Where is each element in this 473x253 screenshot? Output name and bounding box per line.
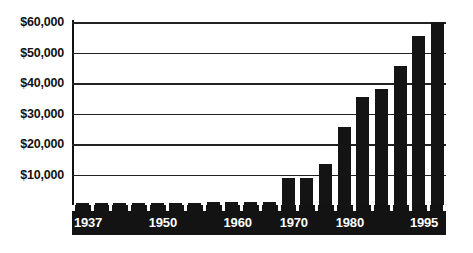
x-axis-tick-label: 1980: [336, 215, 364, 230]
x-axis-tick: [409, 205, 412, 211]
x-axis-tick: [296, 205, 299, 211]
bar-chart: $60,000$50,000$40,000$30,000$20,000$10,0…: [0, 0, 473, 253]
y-axis-tick-label: $40,000: [20, 76, 64, 90]
bar: [300, 178, 313, 205]
bar: [412, 36, 425, 205]
x-axis-tick-label: 1960: [224, 215, 252, 230]
x-axis-tick: [203, 205, 206, 211]
bar: [319, 164, 332, 205]
bar: [282, 178, 295, 205]
bar: [375, 89, 388, 205]
x-axis-tick: [390, 205, 393, 211]
y-axis-tick-label: $30,000: [20, 107, 64, 121]
y-axis-tick-label: $50,000: [20, 46, 64, 60]
x-axis-tick: [128, 205, 131, 211]
y-axis-tick-labels: $60,000$50,000$40,000$30,000$20,000$10,0…: [0, 0, 68, 253]
y-axis-tick-label: $60,000: [20, 15, 64, 29]
x-axis-tick: [443, 205, 446, 211]
x-axis-tick-label: 1937: [74, 215, 102, 230]
x-axis-tick: [222, 205, 225, 211]
bar: [394, 66, 407, 205]
bar: [356, 97, 369, 205]
y-axis-tick-label: $10,000: [20, 168, 64, 182]
x-axis-tick: [184, 205, 187, 211]
x-axis-tick: [371, 205, 374, 211]
x-axis-tick-label: 1970: [280, 215, 308, 230]
x-axis-band: 193719501960197019801995: [72, 205, 446, 235]
x-axis-tick: [427, 205, 430, 211]
plot-area: [72, 22, 446, 205]
y-axis-tick-label: $20,000: [20, 137, 64, 151]
x-axis-tick: [315, 205, 318, 211]
x-axis-tick: [72, 205, 75, 211]
x-axis-tick: [334, 205, 337, 211]
x-axis-tick-label: 1950: [149, 215, 177, 230]
x-axis-tick: [166, 205, 169, 211]
x-axis-tick: [109, 205, 112, 211]
x-axis-tick: [91, 205, 94, 211]
x-axis-tick-label: 1995: [410, 215, 438, 230]
bars-series: [72, 22, 446, 205]
bar: [431, 22, 444, 205]
x-axis-tick: [278, 205, 281, 211]
x-axis-tick: [259, 205, 262, 211]
bar: [338, 127, 351, 205]
x-axis-tick: [147, 205, 150, 211]
x-axis-tick: [353, 205, 356, 211]
x-axis-tick: [240, 205, 243, 211]
